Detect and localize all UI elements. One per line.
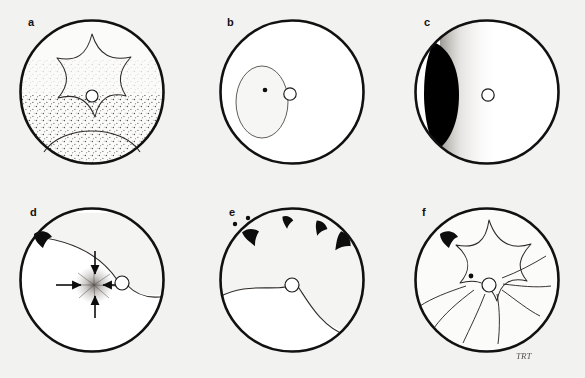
artist-signature: TRT xyxy=(516,351,533,361)
retinal-hole-e-2 xyxy=(246,216,250,220)
panel-c: c xyxy=(390,0,585,190)
panel-b-illustration xyxy=(195,0,390,190)
panel-e: e xyxy=(195,190,390,378)
panel-a: a xyxy=(0,0,195,190)
figure-panel-grid: a xyxy=(0,0,585,378)
panel-letter-e: e xyxy=(229,206,235,218)
optic-disc-c xyxy=(482,89,494,101)
optic-disc-b xyxy=(284,88,296,100)
oval-detachment-b xyxy=(236,66,288,138)
panel-f: f xyxy=(390,190,585,378)
panel-d: d xyxy=(0,190,195,378)
macula-dot-f xyxy=(469,274,474,279)
panel-c-illustration xyxy=(390,0,585,190)
panel-letter-a: a xyxy=(28,16,34,28)
macula-dot-b xyxy=(263,88,268,93)
panel-f-illustration: TRT xyxy=(390,190,585,378)
retinal-hole-e-1 xyxy=(233,222,237,226)
panel-letter-d: d xyxy=(30,206,37,218)
optic-disc-e xyxy=(285,278,299,292)
panel-letter-b: b xyxy=(227,16,234,28)
panel-b: b xyxy=(195,0,390,190)
panel-d-illustration xyxy=(0,190,195,378)
panel-a-illustration xyxy=(0,0,195,190)
pigment-clumping-f xyxy=(414,296,560,356)
optic-disc-a xyxy=(86,90,98,102)
panel-letter-f: f xyxy=(422,206,426,218)
optic-disc-d xyxy=(115,276,129,290)
panel-e-illustration xyxy=(195,190,390,378)
panel-letter-c: c xyxy=(424,16,430,28)
optic-disc-f xyxy=(482,278,496,292)
